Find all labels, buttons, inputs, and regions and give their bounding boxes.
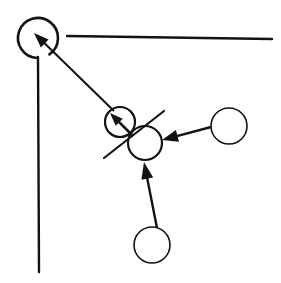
- arrow-bottom-to-middle-head: [141, 162, 153, 180]
- diagram-svg: [0, 0, 281, 283]
- right-circle: [211, 108, 247, 144]
- arrow-bottom-to-middle-shaft: [146, 174, 157, 228]
- nodes-group: [18, 18, 247, 263]
- diagram-canvas: [0, 0, 281, 283]
- arrow-long-to-corner-shaft: [42, 41, 114, 111]
- bottom-circle: [134, 227, 170, 263]
- arrow-right-to-middle-head: [162, 130, 179, 142]
- lower-middle-circle: [128, 126, 162, 160]
- corner-horizontal-line: [67, 36, 272, 39]
- arrows-group: [34, 33, 211, 228]
- corner-vertical-line: [38, 57, 39, 272]
- arrow-right-to-middle-shaft: [173, 127, 211, 137]
